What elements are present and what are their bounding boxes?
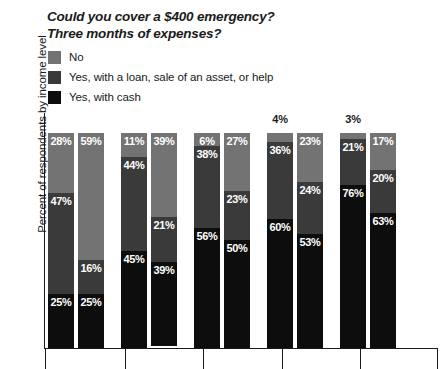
bar-segment-value: 56% bbox=[196, 228, 217, 242]
chart-title: Could you cover a $400 emergency? Three … bbox=[47, 8, 275, 42]
bar-segment-cash: 76% bbox=[340, 185, 366, 348]
legend-swatch-no-icon bbox=[48, 51, 61, 64]
bar-segment-no: 59% bbox=[78, 133, 104, 260]
bar-segment-value: 20% bbox=[372, 170, 393, 184]
x-axis-group-frame bbox=[45, 348, 438, 369]
chart-title-line-2: Three months of expenses? bbox=[47, 25, 275, 42]
bar-segment-loan: 16% bbox=[78, 260, 104, 294]
bar-segment-cash: 60% bbox=[267, 219, 293, 348]
bar-segment-value: 39% bbox=[153, 262, 174, 276]
bar-segment-no: 28% bbox=[48, 133, 74, 193]
bar-segment-value: 23% bbox=[299, 133, 320, 147]
bar-segment-loan: 44% bbox=[121, 157, 147, 252]
bar-segment-no bbox=[267, 133, 293, 142]
bar-segment-cash: 39% bbox=[151, 262, 177, 346]
bar-segment-no: 17% bbox=[370, 133, 396, 170]
bar-segment-value: 25% bbox=[50, 294, 71, 308]
bar-segment-value: 60% bbox=[269, 219, 290, 233]
bar-segment-no: 27% bbox=[224, 133, 250, 191]
bar-segment-cash: 45% bbox=[121, 251, 147, 348]
bar-segment-value: 25% bbox=[80, 294, 101, 308]
stacked-bar: 17%20%63% bbox=[370, 133, 396, 348]
bar-segment-value: 21% bbox=[342, 139, 363, 153]
x-axis-group-separator bbox=[360, 349, 361, 369]
bar-segment-value: 76% bbox=[342, 185, 363, 199]
legend-item-no: No bbox=[48, 47, 273, 67]
bar-segment-cash: 50% bbox=[224, 240, 250, 348]
bar-segment-value: 44% bbox=[123, 157, 144, 171]
bar-segment-value: 6% bbox=[199, 133, 214, 147]
bar-segment-value: 53% bbox=[299, 234, 320, 248]
bar-segment-no: 6% bbox=[194, 133, 220, 146]
bar-segment-value: 63% bbox=[372, 213, 393, 227]
bar-segment-no: 39% bbox=[151, 133, 177, 217]
chart-title-line-1: Could you cover a $400 emergency? bbox=[47, 8, 275, 25]
bar-segment-cash: 25% bbox=[78, 294, 104, 348]
stacked-bar: 23%24%53% bbox=[297, 133, 323, 348]
bar-segment-value: 39% bbox=[153, 133, 174, 147]
bar-segment-value: 21% bbox=[153, 217, 174, 231]
bar-segment-value: 50% bbox=[226, 240, 247, 254]
bar-segment-value: 59% bbox=[80, 133, 101, 147]
bar-segment-loan: 21% bbox=[340, 139, 366, 184]
bar-segment-loan: 24% bbox=[297, 182, 323, 234]
bar-segment-cash: 63% bbox=[370, 213, 396, 348]
x-axis-group-separator bbox=[282, 349, 283, 369]
legend-item-cash: Yes, with cash bbox=[48, 87, 273, 107]
chart-figure: Could you cover a $400 emergency? Three … bbox=[0, 0, 441, 369]
stacked-bar: 28%47%25% bbox=[48, 133, 74, 348]
bar-segment-cash: 53% bbox=[297, 234, 323, 348]
bar-outside-value: 4% bbox=[260, 113, 300, 125]
bar-segment-no: 23% bbox=[297, 133, 323, 182]
bar-segment-value: 36% bbox=[269, 142, 290, 156]
bar-segment-loan: 36% bbox=[267, 142, 293, 219]
chart-legend: No Yes, with a loan, sale of an asset, o… bbox=[48, 47, 273, 107]
bar-outside-value: 3% bbox=[333, 113, 373, 125]
stacked-bar: 21%76% bbox=[340, 133, 366, 348]
stacked-bar: 36%60% bbox=[267, 133, 293, 348]
stacked-bar: 39%21%39% bbox=[151, 133, 177, 348]
bar-segment-value: 28% bbox=[50, 133, 71, 147]
bar-segment-cash: 25% bbox=[48, 294, 74, 348]
legend-label-loan: Yes, with a loan, sale of an asset, or h… bbox=[69, 71, 273, 83]
bar-segment-value: 38% bbox=[196, 146, 217, 160]
legend-label-no: No bbox=[69, 51, 84, 63]
legend-item-loan: Yes, with a loan, sale of an asset, or h… bbox=[48, 67, 273, 87]
bar-segment-loan: 23% bbox=[224, 191, 250, 240]
legend-label-cash: Yes, with cash bbox=[69, 91, 141, 103]
plot-area: 28%47%25%59%16%25%11%44%45%39%21%39%6%38… bbox=[45, 113, 441, 360]
stacked-bar: 27%23%50% bbox=[224, 133, 250, 348]
bar-segment-value: 27% bbox=[226, 133, 247, 147]
bar-segment-loan: 47% bbox=[48, 193, 74, 294]
bars-layer: 28%47%25%59%16%25%11%44%45%39%21%39%6%38… bbox=[45, 113, 441, 360]
bar-segment-value: 45% bbox=[123, 251, 144, 265]
bar-segment-value: 23% bbox=[226, 191, 247, 205]
x-axis-group-separator bbox=[125, 349, 126, 369]
x-axis-group-separator bbox=[203, 349, 204, 369]
bar-segment-value: 11% bbox=[124, 133, 145, 147]
bar-segment-loan: 20% bbox=[370, 170, 396, 213]
legend-swatch-loan-icon bbox=[48, 71, 61, 84]
bar-segment-value: 16% bbox=[80, 260, 101, 274]
legend-swatch-cash-icon bbox=[48, 91, 61, 104]
stacked-bar: 59%16%25% bbox=[78, 133, 104, 348]
stacked-bar: 6%38%56% bbox=[194, 133, 220, 348]
stacked-bar: 11%44%45% bbox=[121, 133, 147, 348]
bar-segment-value: 24% bbox=[299, 182, 320, 196]
bar-segment-no: 11% bbox=[121, 133, 147, 157]
bar-segment-value: 17% bbox=[372, 133, 393, 147]
bar-segment-loan: 38% bbox=[194, 146, 220, 228]
bar-segment-loan: 21% bbox=[151, 217, 177, 262]
bar-segment-cash: 56% bbox=[194, 228, 220, 348]
bar-segment-value: 47% bbox=[50, 193, 71, 207]
